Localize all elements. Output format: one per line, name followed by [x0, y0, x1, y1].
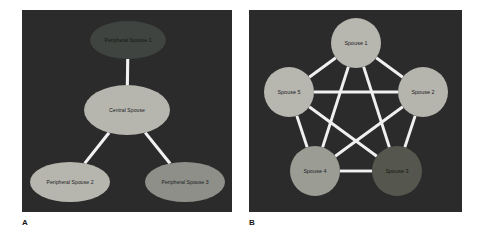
- graph-edge: [145, 133, 170, 164]
- node-layer: Spouse 1Spouse 2Spouse 3Spouse 4Spouse 5: [264, 18, 448, 196]
- node-shape[interactable]: [145, 162, 225, 202]
- graph-node[interactable]: Peripheral Spouse 2: [30, 162, 110, 202]
- panel-a: Central SpousePeripheral Spouse 1Periphe…: [22, 10, 232, 212]
- graph-edge: [364, 67, 390, 147]
- panel-a-letter: A: [22, 219, 28, 227]
- graph-edge: [297, 116, 307, 148]
- node-shape[interactable]: [290, 146, 340, 196]
- graph-node[interactable]: Peripheral Spouse 1: [90, 21, 166, 59]
- node-layer: Central SpousePeripheral Spouse 1Periphe…: [30, 21, 225, 202]
- figure-canvas: Central SpousePeripheral Spouse 1Periphe…: [0, 0, 481, 241]
- graph-edge: [376, 58, 403, 77]
- graph-edge: [85, 133, 109, 164]
- graph-node[interactable]: Spouse 1: [331, 18, 381, 68]
- graph-node[interactable]: Spouse 5: [264, 67, 314, 117]
- graph-node[interactable]: Spouse 3: [372, 146, 422, 196]
- graph-node[interactable]: Spouse 2: [398, 67, 448, 117]
- node-shape[interactable]: [90, 21, 166, 59]
- panel-a-graph: Central SpousePeripheral Spouse 1Periphe…: [22, 10, 232, 212]
- graph-node[interactable]: Spouse 4: [290, 146, 340, 196]
- graph-edge: [309, 58, 336, 77]
- panel-b-letter: B: [249, 219, 255, 227]
- node-shape[interactable]: [264, 67, 314, 117]
- node-shape[interactable]: [84, 85, 170, 135]
- graph-edge: [405, 116, 415, 148]
- panel-b: Spouse 1Spouse 2Spouse 3Spouse 4Spouse 5: [249, 10, 462, 212]
- node-shape[interactable]: [331, 18, 381, 68]
- node-shape[interactable]: [398, 67, 448, 117]
- graph-node[interactable]: Peripheral Spouse 3: [145, 162, 225, 202]
- panel-b-graph: Spouse 1Spouse 2Spouse 3Spouse 4Spouse 5: [249, 10, 462, 212]
- graph-edge: [323, 67, 349, 147]
- node-shape[interactable]: [372, 146, 422, 196]
- graph-node[interactable]: Central Spouse: [84, 85, 170, 135]
- node-shape[interactable]: [30, 162, 110, 202]
